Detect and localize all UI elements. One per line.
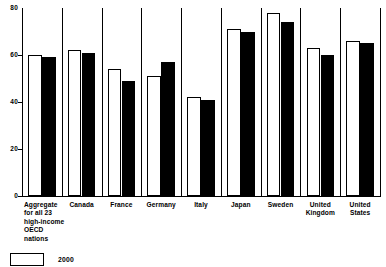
bar [241, 32, 255, 197]
bar [82, 53, 96, 196]
plot-area [22, 8, 380, 196]
bar [201, 100, 215, 196]
bar [321, 55, 335, 196]
chart-legend: 2000 [10, 253, 74, 266]
bar [161, 62, 175, 196]
category-label-line: Italy [181, 201, 221, 209]
y-axis-tick-label: 60 [10, 52, 18, 59]
category-label: Sweden [261, 201, 301, 209]
y-axis-tick-mark [18, 196, 22, 197]
category-label-line: United [340, 201, 380, 209]
category-label: UnitedStates [340, 201, 380, 218]
category-label-line: Sweden [261, 201, 301, 209]
bar [28, 55, 42, 196]
category-label-line: Canada [62, 201, 102, 209]
bar [346, 41, 360, 196]
category-label-line: nations [24, 235, 84, 243]
bar [360, 43, 374, 196]
bar [307, 48, 321, 196]
bar [42, 57, 56, 196]
category-label-line: Germany [141, 201, 181, 209]
category-label: UnitedKingdom [300, 201, 340, 218]
group-separator [380, 8, 381, 197]
y-axis-tick-label: 40 [10, 99, 18, 106]
category-label-line: high-income [24, 218, 84, 226]
category-label-line: States [340, 209, 380, 217]
legend-swatch [10, 253, 44, 266]
category-label: Germany [141, 201, 181, 209]
bar [122, 81, 136, 196]
category-label-line: Japan [221, 201, 261, 209]
bar [281, 22, 295, 196]
category-label: Japan [221, 201, 261, 209]
category-label-line: OECD [24, 226, 84, 234]
category-label: France [102, 201, 142, 209]
bar [68, 50, 82, 196]
legend-label: 2000 [58, 256, 74, 263]
y-axis-tick-label: 20 [10, 146, 18, 153]
category-label-line: United [300, 201, 340, 209]
x-axis-line [22, 196, 380, 197]
bar [187, 97, 201, 196]
category-label-line: France [102, 201, 142, 209]
y-axis-tick-label: 80 [10, 5, 18, 12]
category-label: Italy [181, 201, 221, 209]
bar [108, 69, 122, 196]
bar-chart: 020406080 Aggregatefor all 23high-income… [0, 0, 386, 267]
category-label-line: for all 23 [24, 209, 84, 217]
bar [227, 29, 241, 196]
bar [147, 76, 161, 196]
category-label: Canada [62, 201, 102, 209]
bar [267, 13, 281, 196]
category-label-line: Kingdom [300, 209, 340, 217]
